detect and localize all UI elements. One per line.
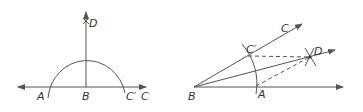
label-D: D [314,45,322,58]
label-D: D [89,17,97,30]
dashed-A-D [256,57,310,86]
dashed-Cprime-D [248,56,310,57]
label-A: A [36,90,45,103]
label-C: C [141,90,149,103]
point-D [309,56,312,59]
label-A: A [257,88,266,101]
left-figure: A B C′ C D [18,12,149,103]
label-C-prime: C′ [126,90,137,103]
label-C-prime: C′ [246,43,257,56]
label-B: B [82,90,90,103]
label-B: B [188,90,196,103]
geometry-diagram: A B C′ C D B A C′ C D [0,0,363,112]
label-C: C [281,22,289,35]
right-figure: B A C′ C D [188,22,343,103]
